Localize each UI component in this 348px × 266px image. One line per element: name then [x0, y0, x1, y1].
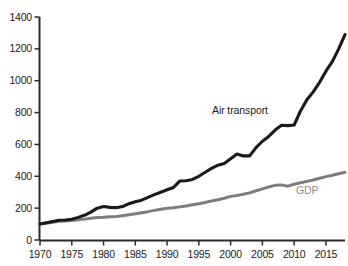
- line-chart-plot: [0, 0, 348, 266]
- x-tick-label: 1985: [117, 248, 153, 260]
- y-tick-label: 1000: [0, 74, 32, 86]
- x-tick-label: 2005: [244, 248, 280, 260]
- x-tick-label: 1980: [86, 248, 122, 260]
- series-label-gdp: GDP: [296, 184, 318, 196]
- x-tick-label: 1995: [181, 248, 217, 260]
- x-tick-label: 1990: [149, 248, 185, 260]
- y-tick-label: 400: [0, 170, 32, 182]
- x-tick-label: 2015: [308, 248, 344, 260]
- y-tick-label: 1200: [0, 42, 32, 54]
- chart-container: 0200400600800100012001400 19701975198019…: [0, 0, 348, 266]
- x-tick-label: 1975: [54, 248, 90, 260]
- y-tick-label: 200: [0, 202, 32, 214]
- y-tick-label: 0: [0, 234, 32, 246]
- x-tick-label: 2000: [213, 248, 249, 260]
- y-tick-label: 800: [0, 106, 32, 118]
- y-tick-label: 1400: [0, 11, 32, 23]
- y-tick-label: 600: [0, 138, 32, 150]
- axis-group: [35, 17, 346, 246]
- x-tick-label: 1970: [22, 248, 58, 260]
- series-label-air-transport: Air transport: [212, 104, 268, 116]
- x-tick-label: 2010: [276, 248, 312, 260]
